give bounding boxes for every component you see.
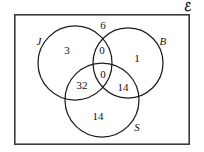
region-count-s-only: 14 — [93, 111, 104, 122]
venn-diagram-canvas: ℰ J B S 3 1 14 0 32 14 0 6 — [0, 0, 204, 152]
region-count-j-only: 3 — [64, 45, 70, 56]
epsilon-universal-set-symbol: ℰ — [184, 2, 191, 14]
set-label-j: J — [36, 36, 41, 47]
set-label-b: B — [160, 36, 167, 47]
set-label-s: S — [134, 122, 140, 133]
region-count-outside: 6 — [100, 20, 106, 31]
region-count-j-and-b: 0 — [99, 45, 105, 56]
region-count-j-b-and-s: 0 — [100, 69, 106, 80]
region-count-j-and-s: 32 — [77, 80, 88, 91]
region-count-b-and-s: 14 — [118, 82, 129, 93]
region-count-b-only: 1 — [134, 53, 140, 64]
